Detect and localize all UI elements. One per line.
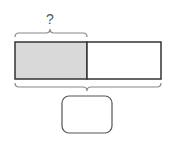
question-label: ? bbox=[46, 11, 54, 27]
top-brace bbox=[15, 29, 87, 37]
shaded-segment bbox=[15, 42, 87, 79]
unshaded-segment bbox=[87, 42, 161, 79]
answer-box[interactable] bbox=[62, 96, 112, 133]
bottom-brace bbox=[15, 83, 161, 91]
tape-diagram: ? bbox=[0, 0, 171, 141]
